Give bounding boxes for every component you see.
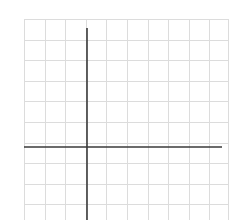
grid-lines	[24, 19, 229, 220]
coordinate-grid	[0, 0, 239, 220]
